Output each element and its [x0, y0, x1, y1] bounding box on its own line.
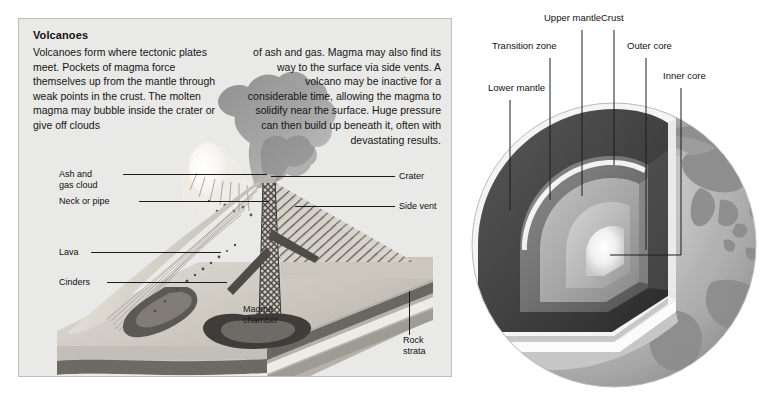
volcano-panel: Volcanoes Volcanoes form where tectonic … — [18, 18, 452, 377]
label-cinders: Cinders — [59, 277, 109, 288]
leader-neck-or-pipe — [139, 201, 269, 202]
label-transition-zone: Transition zone — [492, 40, 557, 51]
label-inner-core: Inner core — [663, 70, 706, 81]
earth-illustration — [462, 0, 767, 400]
leader-cinders — [107, 282, 227, 283]
label-crater: Crater — [399, 171, 445, 182]
page-title: Volcanoes — [33, 29, 88, 41]
leader-side-vent — [295, 206, 395, 207]
rock-strata-front — [57, 346, 267, 377]
label-outer-core: Outer core — [627, 40, 672, 51]
leader-ash-cloud — [123, 174, 267, 175]
leader-rock-strata — [409, 291, 410, 335]
body-text-right: of ash and gas. Magma may also find its … — [243, 45, 441, 147]
leader-crater — [271, 176, 395, 177]
label-magma-chamber: Magma chamber — [243, 304, 299, 325]
label-neck-or-pipe: Neck or pipe — [59, 196, 139, 207]
label-ash-and-gas-cloud: Ash and gas cloud — [59, 169, 119, 190]
label-lower-mantle: Lower mantle — [488, 82, 545, 93]
leader-lava — [91, 252, 221, 253]
label-crust: Crust — [601, 12, 624, 23]
label-rock-strata: Rock strata — [403, 335, 447, 356]
label-side-vent: Side vent — [399, 201, 451, 212]
earth-cutaway-diagram: Lower mantle Transition zone Upper mantl… — [462, 0, 767, 400]
label-upper-mantle: Upper mantle — [544, 12, 601, 23]
body-text-left: Volcanoes form where tectonic plates mee… — [33, 45, 229, 133]
